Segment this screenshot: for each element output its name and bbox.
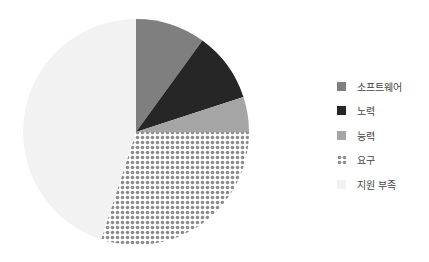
pie-slices [23, 19, 249, 245]
legend-label: 능력 [357, 128, 375, 143]
legend-swatch-effort [337, 106, 346, 115]
legend-swatch-demand [337, 155, 346, 164]
legend-item-demand: 요구 [337, 148, 402, 173]
legend-label: 노력 [357, 103, 375, 118]
legend-item-effort: 노력 [337, 99, 402, 124]
legend-item-software: 소프트웨어 [337, 74, 402, 99]
legend-swatch-lack-of-support [337, 180, 346, 189]
legend-label: 소프트웨어 [357, 79, 402, 94]
legend-item-lack-of-support: 지원 부족 [337, 172, 402, 197]
legend-swatch-software [337, 82, 346, 91]
legend-item-ability: 능력 [337, 123, 402, 148]
legend-label: 지원 부족 [357, 177, 396, 192]
legend-label: 요구 [357, 152, 375, 167]
legend-swatch-ability [337, 131, 346, 140]
legend: 소프트웨어 노력 능력 요구 지원 부족 [337, 74, 402, 197]
